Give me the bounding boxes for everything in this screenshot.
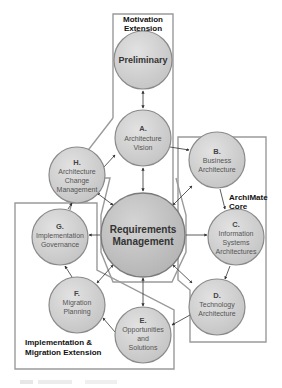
node-label: Architecture — [124, 135, 161, 142]
node-title: Preliminary — [118, 55, 167, 65]
node-label: Solutions — [129, 344, 158, 351]
node-label: Implementation — [36, 232, 84, 240]
node-letter: G. — [56, 222, 64, 231]
node-label: Opportunities — [122, 326, 164, 334]
node-label: Migration — [63, 299, 92, 307]
node-g-implementation-governance[interactable]: G. Implementation Governance — [32, 209, 88, 265]
motivation-label: Motivation — [123, 15, 163, 24]
archimate-core-label: Core — [229, 202, 248, 211]
node-b-business-architecture[interactable]: B. Business Architecture — [189, 132, 245, 188]
node-label: Change — [65, 177, 90, 185]
node-letter: A. — [139, 124, 147, 133]
node-label: Management — [57, 186, 98, 194]
node-label: Architecture — [198, 166, 235, 173]
node-label: Governance — [41, 241, 79, 248]
node-label: and — [137, 335, 149, 342]
motivation-label: Extension — [124, 24, 162, 33]
togaf-archimate-diagram: Preliminary A. Architecture Vision H. Ar… — [0, 0, 282, 388]
node-label: Business — [203, 157, 232, 164]
node-label: Information — [218, 230, 253, 237]
node-letter: D. — [213, 291, 221, 300]
archimate-core-label: ArchiMate — [229, 193, 268, 202]
node-letter: H. — [73, 158, 81, 167]
node-label: Requirements — [110, 224, 177, 235]
node-label: Architecture — [58, 168, 95, 175]
node-a-architecture-vision[interactable]: A. Architecture Vision — [115, 110, 171, 166]
node-c-information-systems-architectures[interactable]: C. Information Systems Architectures — [208, 209, 264, 265]
node-label: Vision — [134, 144, 153, 151]
implementation-label: Migration Extension — [25, 348, 102, 357]
node-letter: F. — [74, 289, 80, 298]
node-letter: E. — [139, 316, 146, 325]
node-letter: C. — [232, 220, 240, 229]
node-label: Systems — [223, 239, 250, 247]
implementation-label: Implementation & — [25, 338, 92, 347]
node-label: Planning — [63, 308, 90, 316]
node-label: Management — [112, 236, 174, 247]
node-label: Technology — [199, 301, 235, 309]
node-h-architecture-change-management[interactable]: H. Architecture Change Management — [49, 147, 105, 203]
node-e-opportunities-and-solutions[interactable]: E. Opportunities and Solutions — [115, 307, 171, 363]
figure-caption-illegible — [20, 380, 150, 384]
node-d-technology-architecture[interactable]: D. Technology Architecture — [189, 279, 245, 335]
node-requirements-management[interactable]: Requirements Management — [101, 193, 185, 277]
node-letter: B. — [213, 147, 221, 156]
node-f-migration-planning[interactable]: F. Migration Planning — [49, 277, 105, 333]
node-label: Architecture — [198, 310, 235, 317]
node-preliminary[interactable]: Preliminary — [114, 31, 172, 89]
node-label: Architectures — [216, 248, 257, 255]
